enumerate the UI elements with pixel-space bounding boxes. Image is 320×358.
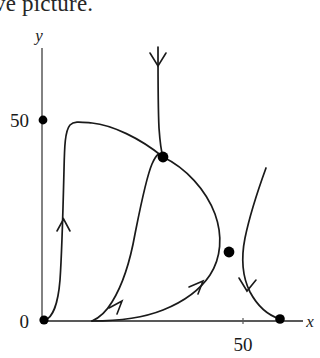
y-axis-tick-label-50: 50 [10,110,29,131]
trajectory-outgoing-right-separatrix [92,157,220,321]
point-x-axis-equilibrium [275,314,285,324]
point-y-axis-equilibrium [39,116,48,125]
phase-plane-figure: y x 50 50 0 [0,0,320,358]
x-axis-label: x [305,312,314,331]
point-origin-equilibrium [39,315,48,324]
x-axis-tick-label-50: 50 [234,334,253,355]
point-interior-saddle [158,152,169,163]
y-axis-label: y [33,26,43,45]
trajectory-right-descending [243,168,280,319]
arrowhead-up-right-outer-curve [189,281,203,294]
arrowhead-up-left-curve [57,219,70,231]
axes-group [42,48,303,324]
trajectory-curves-group [45,47,280,321]
point-interior-isolated [224,247,235,258]
figure-page: ve picture. [0,0,320,358]
direction-arrowheads-group [57,53,256,314]
origin-label-zero: 0 [20,311,30,332]
trajectory-inner-rising [92,154,163,321]
